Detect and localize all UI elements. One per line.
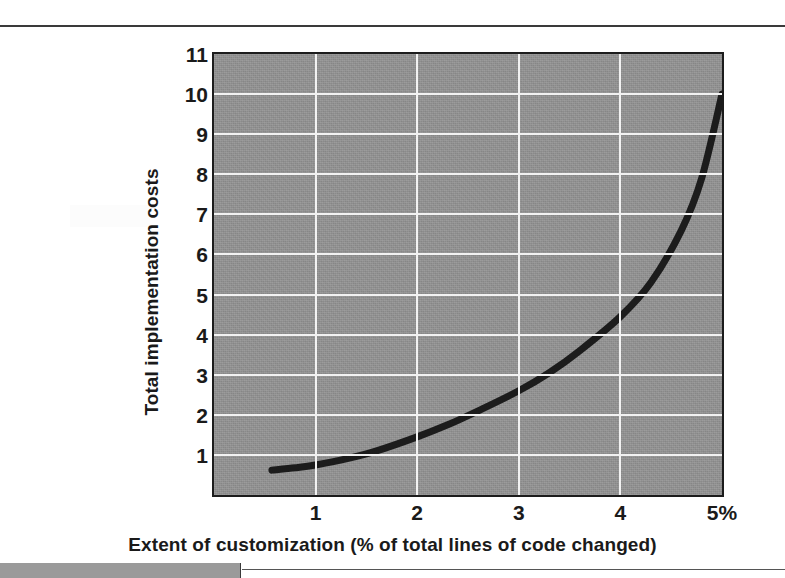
bottom-horizontal-rule xyxy=(242,569,785,570)
gridline-horizontal xyxy=(214,294,722,296)
gridline-horizontal xyxy=(214,414,722,416)
gridline-vertical xyxy=(518,54,520,495)
x-tick-label: 5% xyxy=(707,502,737,523)
gridline-horizontal xyxy=(214,374,722,376)
y-tick-label: 10 xyxy=(168,84,208,105)
gridline-horizontal xyxy=(214,93,722,95)
y-axis-tick-labels: 1110987654321 xyxy=(168,52,208,497)
gridline-horizontal xyxy=(214,454,722,456)
y-tick-label: 7 xyxy=(168,204,208,225)
y-tick-label: 1 xyxy=(168,444,208,465)
y-tick-label: 5 xyxy=(168,284,208,305)
y-tick-label: 2 xyxy=(168,404,208,425)
top-horizontal-rule xyxy=(0,25,785,27)
gridline-horizontal xyxy=(214,253,722,255)
x-tick-label: 4 xyxy=(615,502,627,523)
gridline-horizontal xyxy=(214,133,722,135)
gridline-vertical xyxy=(416,54,418,495)
x-axis-title: Extent of customization (% of total line… xyxy=(0,534,785,556)
y-tick-label: 6 xyxy=(168,244,208,265)
y-tick-label: 3 xyxy=(168,364,208,385)
figure-page: Total implementation costs 1110987654321… xyxy=(0,0,785,578)
plot-area xyxy=(212,52,724,497)
y-tick-label: 8 xyxy=(168,164,208,185)
bottom-gray-bar xyxy=(0,563,241,578)
chart-figure: Total implementation costs 1110987654321… xyxy=(0,30,785,560)
gridline-horizontal xyxy=(214,173,722,175)
cost-curve xyxy=(214,54,722,495)
y-tick-label: 4 xyxy=(168,324,208,345)
y-axis-title: Total implementation costs xyxy=(139,122,165,462)
y-tick-label: 9 xyxy=(168,124,208,145)
x-tick-label: 1 xyxy=(310,502,322,523)
x-tick-label: 2 xyxy=(411,502,423,523)
x-axis-tick-labels: 12345% xyxy=(212,502,724,532)
gridline-vertical xyxy=(315,54,317,495)
gridline-vertical xyxy=(619,54,621,495)
gridline-horizontal xyxy=(214,213,722,215)
x-tick-label: 3 xyxy=(513,502,525,523)
y-tick-label: 11 xyxy=(168,44,208,65)
gridline-horizontal xyxy=(214,334,722,336)
